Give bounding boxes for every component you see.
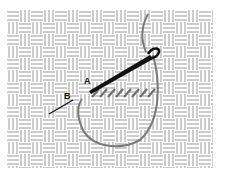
- needlepoint-diagram: A B: [0, 0, 225, 173]
- label-a: A: [84, 76, 91, 86]
- canvas-grid: [7, 10, 213, 168]
- label-b: B: [64, 91, 71, 101]
